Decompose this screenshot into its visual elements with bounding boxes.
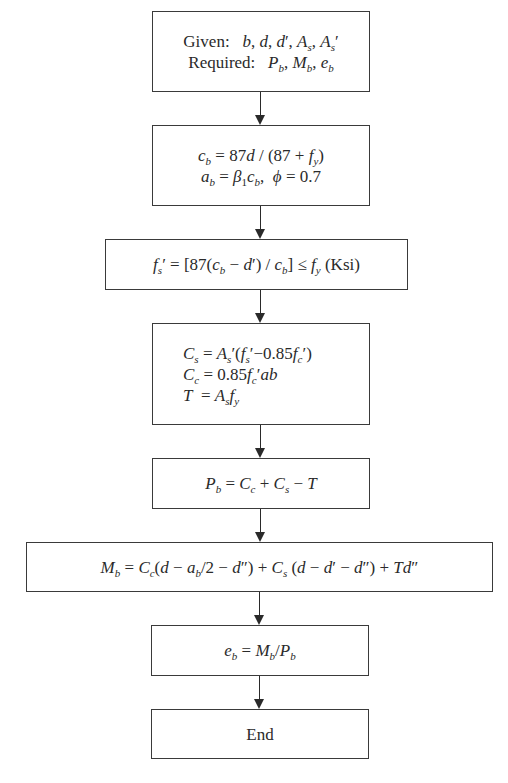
mb-equation: Mb = Cc(d − ab/2 − d″) + Cs (d − d′ − d″… xyxy=(101,557,419,578)
node-eb: eb = Mb/Pb xyxy=(151,625,369,676)
ab-equation: ab = β1cb, ϕ = 0.7 xyxy=(201,166,321,187)
given-line: Given: b, d, d′, As, As′ xyxy=(183,31,338,52)
cb-equation: cb = 87d / (87 + fy) xyxy=(198,145,324,166)
eb-equation: eb = Mb/Pb xyxy=(224,640,295,661)
cs-equation: Cs = As′(fs′−0.85fc′) xyxy=(183,343,312,364)
node-forces: Cs = As′(fs′−0.85fc′) Cc = 0.85fc′ab T =… xyxy=(152,323,370,425)
node-pb: Pb = Cc + Cs − T xyxy=(152,458,370,509)
node-end: End xyxy=(151,709,369,759)
fs-prime-equation: fs′ = [87(cb − d′) / cb] ≤ fy (Ksi) xyxy=(153,254,360,275)
node-cb-ab: cb = 87d / (87 + fy) ab = β1cb, ϕ = 0.7 xyxy=(152,125,370,206)
end-label: End xyxy=(246,724,273,745)
cc-equation: Cc = 0.85fc′ab xyxy=(183,364,277,385)
t-equation: T = Asfy xyxy=(183,385,239,406)
pb-equation: Pb = Cc + Cs − T xyxy=(205,473,317,494)
ksi-unit: (Ksi) xyxy=(325,255,360,274)
node-mb: Mb = Cc(d − ab/2 − d″) + Cs (d − d′ − d″… xyxy=(26,542,493,592)
required-label: Required: xyxy=(188,53,255,72)
figure-caption-cropped xyxy=(8,771,14,783)
required-line: Required: Pb, Mb, eb xyxy=(188,52,333,73)
node-fs-prime: fs′ = [87(cb − d′) / cb] ≤ fy (Ksi) xyxy=(105,239,408,290)
given-label: Given: xyxy=(183,32,229,51)
node-given-required: Given: b, d, d′, As, As′ Required: Pb, M… xyxy=(152,11,370,92)
